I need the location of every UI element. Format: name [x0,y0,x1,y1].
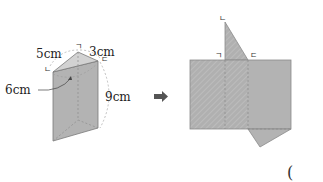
triangular-prism: 5cm 3cm 6cm 9cm ㄱ ㄴ ㄷ [5,42,131,141]
net-mark-right: ㄷ [250,51,257,60]
label-6cm: 6cm [5,83,31,97]
right-arrow-icon [154,91,168,102]
net-mark-apex: ㄴ [219,14,226,23]
net-bottom-triangle [248,129,291,147]
label-5cm: 5cm [36,47,62,61]
answer-paren: ( [287,163,293,182]
vertex-mark-top: ㄱ [75,42,82,51]
net-face-middle [225,60,248,129]
net-top-triangle [225,22,248,60]
net-mark-left: ㄱ [215,51,222,60]
vertex-mark-left: ㄴ [44,65,51,74]
vertex-mark-right: ㄷ [101,55,108,64]
prism-front-face [53,61,98,141]
label-9cm: 9cm [105,90,131,104]
net-face-right [248,60,291,129]
figure-canvas: 5cm 3cm 6cm 9cm ㄱ ㄴ ㄷ ㄴ ㄱ ㄷ ( [0,0,323,182]
net-face-left [190,60,225,129]
prism-net: ㄴ ㄱ ㄷ [190,14,291,147]
